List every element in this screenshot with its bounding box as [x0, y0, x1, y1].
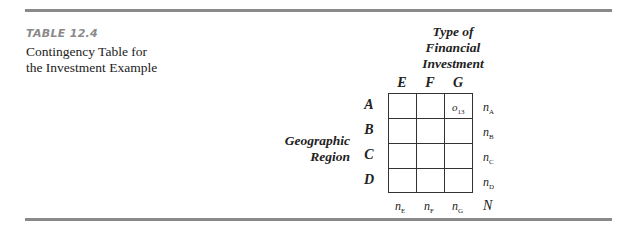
- row-total-d: nD: [483, 175, 494, 191]
- row-title-line: Geographic: [250, 133, 350, 149]
- row-total-b: nB: [483, 125, 494, 141]
- row-header-d: D: [362, 172, 376, 188]
- total-subscript: D: [489, 183, 494, 191]
- column-title-line: Type of: [398, 24, 508, 40]
- grid-hline: [389, 118, 472, 119]
- table-label: TABLE 12.4: [26, 27, 98, 40]
- cell-a-g: o13: [452, 101, 465, 116]
- row-header-b: B: [362, 122, 376, 138]
- row-variable-title: Geographic Region: [250, 133, 350, 165]
- column-header-f: F: [416, 75, 444, 91]
- total-subscript: F: [430, 207, 434, 215]
- column-title-line: Financial: [398, 40, 508, 56]
- row-header-c: C: [362, 147, 376, 163]
- column-header-e: E: [388, 75, 416, 91]
- column-total-g: nG: [452, 199, 463, 215]
- total-subscript: C: [489, 158, 494, 166]
- grid-hline: [389, 143, 472, 144]
- table-caption: Contingency Table for the Investment Exa…: [26, 44, 157, 76]
- column-total-e: nE: [395, 199, 405, 215]
- top-rule: [25, 9, 612, 12]
- row-header-a: A: [362, 97, 376, 113]
- total-subscript: E: [401, 207, 405, 215]
- bottom-rule: [25, 218, 612, 221]
- total-subscript: B: [489, 133, 494, 141]
- grand-total: N: [483, 198, 492, 214]
- column-title-line: Investment: [398, 56, 508, 72]
- caption-line: Contingency Table for: [26, 44, 157, 60]
- column-total-f: nF: [424, 199, 434, 215]
- column-header-g: G: [444, 75, 472, 91]
- cell-subscript: 13: [458, 108, 465, 116]
- caption-line: the Investment Example: [26, 60, 157, 76]
- total-subscript: G: [458, 207, 463, 215]
- row-total-a: nA: [483, 100, 494, 116]
- total-subscript: A: [489, 108, 494, 116]
- row-title-line: Region: [250, 149, 350, 165]
- column-variable-title: Type of Financial Investment: [398, 24, 508, 72]
- grid-hline: [389, 168, 472, 169]
- row-total-c: nC: [483, 150, 494, 166]
